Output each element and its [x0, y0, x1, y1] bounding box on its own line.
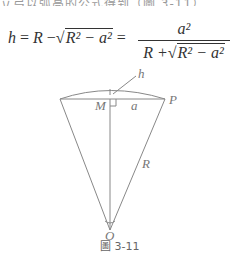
- label-a: a: [131, 98, 138, 113]
- right-angle-mark: [110, 99, 116, 106]
- sector-diagram: h M a P R O: [0, 0, 233, 253]
- label-p: P: [168, 92, 177, 107]
- figure-caption: 圖 3-11: [100, 237, 139, 253]
- radius-left: [60, 99, 110, 230]
- label-m: M: [94, 98, 107, 113]
- label-r: R: [141, 156, 150, 171]
- radius-right: [110, 99, 165, 230]
- label-h: h: [138, 66, 145, 81]
- arc: [60, 91, 165, 100]
